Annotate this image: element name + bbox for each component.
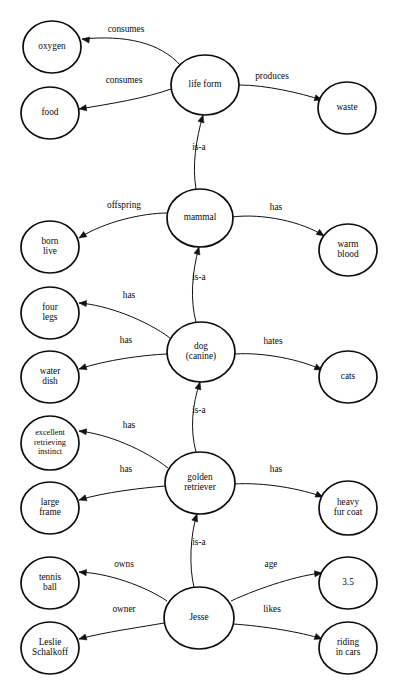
node-cats[interactable]: cats (319, 351, 377, 403)
node-life_form[interactable]: life form (171, 55, 239, 115)
node-label-line: in cars (336, 647, 361, 657)
edge-line (79, 431, 168, 468)
edge-line (79, 303, 170, 338)
node-large_frame[interactable]: largeframe (21, 482, 79, 534)
node-riding[interactable]: ridingin cars (319, 622, 377, 674)
node-label-line: frame (39, 507, 61, 517)
node-label-line: cats (341, 371, 356, 381)
edge-jesse-to-tennis_ball (79, 570, 167, 601)
edge-line (79, 213, 168, 238)
arrowhead-icon (79, 570, 87, 576)
node-warm_blood[interactable]: warmblood (319, 224, 377, 276)
node-label-line: water (40, 366, 62, 376)
arrowhead-icon (198, 115, 204, 123)
node-oxygen[interactable]: oxygen (23, 21, 81, 73)
edge-line (191, 514, 197, 587)
node-water_dish[interactable]: waterdish (21, 351, 79, 403)
edge-dog-to-mammal (192, 247, 199, 322)
edge-line (79, 623, 164, 639)
node-label-line: blood (337, 249, 359, 259)
node-born_live[interactable]: bornlive (21, 221, 79, 273)
arrowhead-icon (79, 105, 87, 111)
edge-golden-to-large_frame (79, 486, 165, 501)
node-label-line: ball (43, 582, 57, 592)
node-label-line: legs (43, 312, 58, 322)
edge-golden-to-heavy_fur (234, 484, 323, 497)
edge-dog-to-four_legs (79, 300, 170, 338)
edge-label-consumes: consumes (108, 24, 145, 34)
node-label-line: warm (337, 239, 359, 249)
edge-label-offspring: offspring (107, 200, 141, 210)
network-canvas: oxygenfoodlife formwastemammalbornlivewa… (0, 0, 397, 688)
node-instinct[interactable]: excellentretrievinginstinct (21, 416, 79, 470)
edge-label-produces: produces (255, 71, 289, 81)
edge-golden-to-dog (193, 382, 201, 452)
edge-dog-to-cats (235, 354, 322, 370)
node-label-line: heavy (337, 497, 360, 507)
node-age_value[interactable]: 3.5 (319, 557, 377, 609)
node-label-line: riding (337, 637, 360, 647)
node-label-line: mammal (184, 212, 217, 222)
edge-line (233, 624, 322, 639)
arrowhead-icon (79, 429, 87, 435)
arrowhead-icon (79, 364, 87, 370)
node-food[interactable]: food (21, 87, 79, 139)
edge-label-is-a: is-a (192, 405, 205, 415)
node-label-line: live (43, 246, 57, 256)
edge-jesse-to-age_value (231, 571, 322, 601)
edge-jesse-to-golden (191, 514, 198, 587)
edge-line (234, 484, 323, 497)
node-label-line: dish (42, 376, 58, 386)
edge-line (232, 216, 324, 236)
edge-line (231, 573, 322, 601)
node-label-line: 3.5 (342, 577, 354, 587)
edge-jesse-to-leslie (79, 623, 164, 640)
arrowhead-icon (192, 514, 198, 522)
edge-dog-to-water_dish (79, 354, 167, 370)
edge-label-has: has (123, 420, 136, 430)
edge-golden-to-instinct (79, 429, 168, 468)
edge-label-is-a: is-a (192, 272, 205, 282)
arrowhead-icon (79, 634, 87, 640)
edge-label-has: has (120, 464, 133, 474)
edge-label-consumes: consumes (106, 75, 143, 85)
edge-label-has: has (120, 335, 133, 345)
edge-label-likes: likes (263, 604, 281, 614)
node-label-line: fur coat (334, 507, 363, 517)
node-jesse[interactable]: Jesse (164, 587, 234, 649)
node-label-line: born (41, 236, 58, 246)
arrowhead-icon (316, 229, 324, 236)
node-four_legs[interactable]: fourlegs (21, 287, 79, 339)
node-golden[interactable]: goldenretriever (165, 452, 235, 514)
arrowhead-icon (79, 231, 87, 238)
edge-label-has: has (123, 290, 136, 300)
node-mammal[interactable]: mammal (167, 189, 233, 247)
node-label-line: tennis (39, 572, 62, 582)
arrowhead-icon (82, 37, 90, 43)
edge-life_form-to-oxygen (82, 37, 181, 66)
edge-line (79, 354, 167, 369)
node-label-line: dog (194, 341, 208, 351)
node-label-line: life form (189, 79, 223, 89)
edge-life_form-to-waste (239, 85, 322, 101)
edge-jesse-to-riding (233, 624, 322, 639)
node-label-line: food (41, 107, 58, 117)
node-label-line: (canine) (186, 351, 216, 362)
edge-mammal-to-warm_blood (232, 216, 324, 236)
arrowhead-icon (79, 495, 87, 501)
edge-label-age: age (265, 559, 278, 569)
edge-mammal-to-born_live (79, 213, 168, 238)
node-dog[interactable]: dog(canine) (167, 322, 235, 382)
node-heavy_fur[interactable]: heavyfur coat (319, 481, 377, 535)
edge-label-is-a: is-a (192, 537, 205, 547)
node-label-line: retrieving (34, 438, 66, 447)
node-waste[interactable]: waste (318, 82, 376, 134)
node-label-line: Leslie (39, 637, 62, 647)
node-tennis_ball[interactable]: tennisball (21, 557, 79, 609)
node-leslie[interactable]: LeslieSchalkoff (21, 622, 79, 674)
node-label-line: instinct (38, 447, 63, 456)
node-label-line: large (41, 497, 59, 507)
node-label-line: Schalkoff (32, 647, 69, 657)
edge-line (193, 382, 200, 452)
semantic-network-diagram: oxygenfoodlife formwastemammalbornlivewa… (0, 0, 397, 688)
